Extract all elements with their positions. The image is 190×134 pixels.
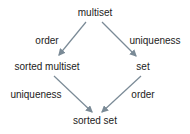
- node-sorted-set: sorted set: [73, 116, 117, 126]
- node-multiset: multiset: [78, 8, 112, 18]
- node-set: set: [136, 62, 149, 72]
- edge-label-order-right: order: [131, 90, 154, 100]
- edge-multiset-to-sorted-multiset: [59, 22, 86, 55]
- edge-label-order-left: order: [35, 36, 58, 46]
- node-sorted-multiset: sorted multiset: [14, 62, 79, 72]
- edge-label-uniqueness-left: uniqueness: [10, 90, 61, 100]
- edge-label-uniqueness-right: uniqueness: [129, 36, 180, 46]
